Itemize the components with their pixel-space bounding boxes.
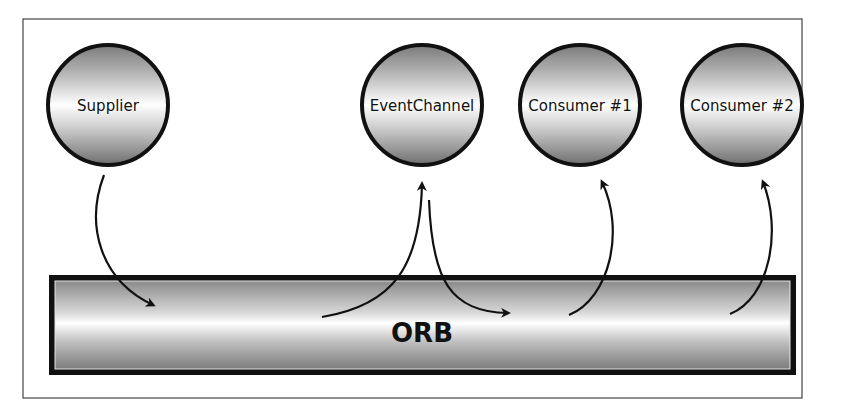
consumer-2-label: Consumer #2 xyxy=(690,97,793,115)
orb-bus: ORB xyxy=(49,275,796,375)
orb-label: ORB xyxy=(391,318,453,348)
event-service-diagram: ORB Supplier EventChannel Consumer #1 Co… xyxy=(0,0,842,413)
node-consumer-2: Consumer #2 xyxy=(682,45,802,165)
supplier-label: Supplier xyxy=(77,97,140,115)
node-event-channel: EventChannel xyxy=(362,45,482,165)
consumer-1-label: Consumer #1 xyxy=(528,97,631,115)
event-channel-label: EventChannel xyxy=(370,97,475,115)
node-supplier: Supplier xyxy=(48,45,168,165)
node-consumer-1: Consumer #1 xyxy=(520,45,640,165)
